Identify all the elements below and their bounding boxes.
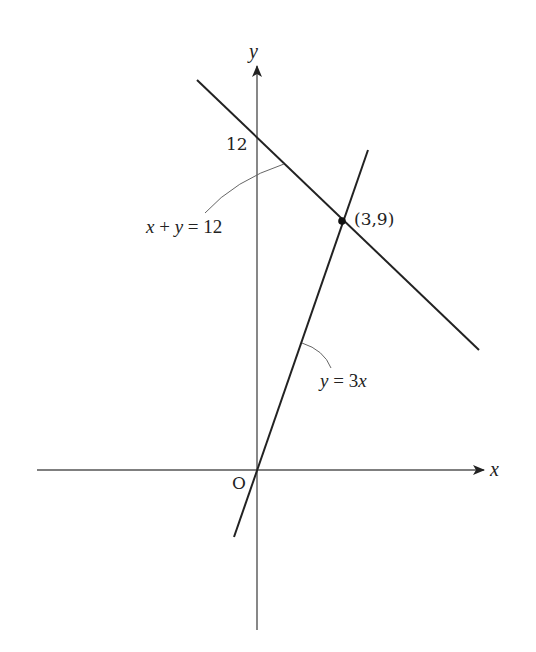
y-axis-label: y bbox=[247, 40, 258, 63]
intersection-point bbox=[338, 217, 346, 225]
leader-x-plus-y-equals-12 bbox=[205, 164, 284, 213]
origin-label: O bbox=[232, 473, 246, 493]
label-y-equals-3x: y = 3x bbox=[318, 370, 367, 391]
x-axis-label: x bbox=[489, 458, 499, 480]
coordinate-diagram: x y O 12 (3,9) x + y = 12 y = 3x bbox=[0, 0, 536, 652]
y-intercept-label: 12 bbox=[226, 134, 248, 154]
line-x-plus-y-equals-12 bbox=[197, 80, 479, 350]
label-op-plus: + bbox=[154, 216, 174, 237]
label-var-y2: y bbox=[318, 370, 329, 391]
line-y-equals-3x bbox=[234, 150, 368, 537]
intersection-label: (3,9) bbox=[354, 209, 394, 229]
label-var-x2: x bbox=[357, 370, 367, 391]
label-x-plus-y-equals-12: x + y = 12 bbox=[145, 216, 222, 237]
label-eq-3: = 3 bbox=[328, 370, 358, 391]
leader-y-equals-3x bbox=[302, 343, 331, 368]
label-eq-12: = 12 bbox=[183, 216, 222, 237]
label-var-y: y bbox=[173, 216, 184, 237]
